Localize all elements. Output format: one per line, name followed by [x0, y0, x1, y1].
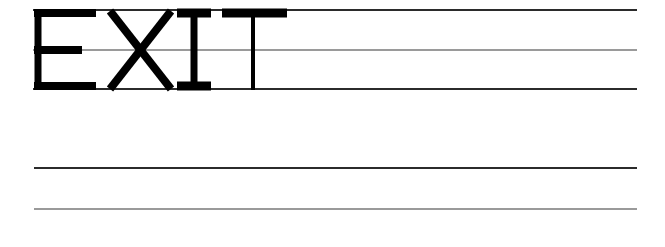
worksheet-canvas	[0, 0, 665, 247]
page-background	[0, 0, 665, 247]
handwriting-worksheet: Handwriting practice worksheet Ruled han…	[0, 0, 665, 247]
